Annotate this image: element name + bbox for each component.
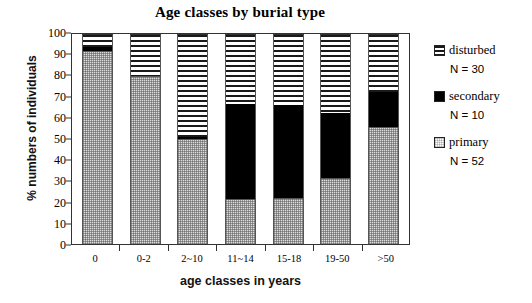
x-tick-label: 0 xyxy=(93,253,98,264)
legend-item[interactable]: primaryN = 52 xyxy=(434,134,530,167)
bar-segment-disturbed[interactable] xyxy=(130,34,161,76)
bar-segment-disturbed[interactable] xyxy=(273,34,304,105)
x-axis-title: age classes in years xyxy=(71,274,410,288)
legend-label: disturbed xyxy=(449,43,496,58)
bar-segment-disturbed[interactable] xyxy=(225,34,256,104)
x-tick-mark xyxy=(265,245,266,251)
stacked-bar[interactable] xyxy=(82,34,113,244)
y-tick-label: 40 xyxy=(54,153,66,168)
x-tick-label: 2~10 xyxy=(181,253,202,264)
hatch-horizontal-swatch xyxy=(434,45,445,56)
bar-segment-secondary[interactable] xyxy=(368,92,399,128)
x-tick-label: >50 xyxy=(378,253,394,264)
x-tick-label: 19-50 xyxy=(325,253,350,264)
stacked-bar[interactable] xyxy=(177,34,208,244)
y-tick-label: 50 xyxy=(54,132,66,147)
legend-item[interactable]: disturbedN = 30 xyxy=(434,42,530,75)
bar-segment-secondary[interactable] xyxy=(273,105,304,197)
bar-segment-disturbed[interactable] xyxy=(177,34,208,137)
x-tick-mark xyxy=(362,245,363,251)
y-axis-ticks: 0102030405060708090100 xyxy=(0,0,71,246)
bar-segment-disturbed[interactable] xyxy=(82,34,113,47)
y-tick-label: 80 xyxy=(54,68,66,83)
stacked-bar[interactable] xyxy=(368,34,399,244)
x-tick-mark xyxy=(119,245,120,251)
y-tick-label: 10 xyxy=(54,216,66,231)
stacked-bar[interactable] xyxy=(320,34,351,244)
x-tick-label: 0-2 xyxy=(137,253,151,264)
x-tick-label: 11~14 xyxy=(227,253,253,264)
legend-count: N = 52 xyxy=(450,155,530,167)
x-tick-mark xyxy=(313,245,314,251)
bar-segment-primary[interactable] xyxy=(82,51,113,244)
bar-segment-primary[interactable] xyxy=(320,178,351,244)
stacked-bar[interactable] xyxy=(273,34,304,244)
x-axis-ticks: 00-22~1011~1415-1819-50>50 xyxy=(71,245,410,275)
plot-area xyxy=(71,33,410,245)
solid-black-swatch xyxy=(434,91,445,102)
x-tick-mark xyxy=(168,245,169,251)
legend-count: N = 30 xyxy=(450,63,530,75)
bar-segment-disturbed[interactable] xyxy=(320,34,351,113)
legend-row[interactable]: disturbed xyxy=(434,42,530,58)
bar-segment-secondary[interactable] xyxy=(225,104,256,199)
y-tick-label: 20 xyxy=(54,195,66,210)
legend-count: N = 10 xyxy=(450,109,530,121)
legend-label: primary xyxy=(449,135,489,150)
bar-group xyxy=(72,34,409,244)
y-tick-label: 70 xyxy=(54,89,66,104)
bar-segment-disturbed[interactable] xyxy=(368,34,399,92)
legend-row[interactable]: primary xyxy=(434,134,530,150)
y-tick-label: 30 xyxy=(54,174,66,189)
dotted-gray-swatch xyxy=(434,137,445,148)
chart-title: Age classes by burial type xyxy=(60,4,420,21)
stacked-bar[interactable] xyxy=(225,34,256,244)
x-tick-label: 15-18 xyxy=(277,253,302,264)
x-tick-mark xyxy=(216,245,217,251)
y-tick-label: 60 xyxy=(54,110,66,125)
legend-item[interactable]: secondaryN = 10 xyxy=(434,88,530,121)
chart-legend: disturbedN = 30secondaryN = 10primaryN =… xyxy=(434,42,530,180)
bar-segment-primary[interactable] xyxy=(130,76,161,244)
bar-segment-primary[interactable] xyxy=(368,127,399,244)
y-tick-label: 90 xyxy=(54,47,66,62)
bar-segment-secondary[interactable] xyxy=(320,113,351,178)
chart-figure: Age classes by burial type % numbers of … xyxy=(0,0,532,303)
stacked-bar[interactable] xyxy=(130,34,161,244)
legend-row[interactable]: secondary xyxy=(434,88,530,104)
y-tick-label: 100 xyxy=(48,26,66,41)
bar-segment-primary[interactable] xyxy=(177,139,208,244)
legend-label: secondary xyxy=(449,89,500,104)
bar-segment-primary[interactable] xyxy=(273,198,304,244)
bar-segment-primary[interactable] xyxy=(225,199,256,244)
